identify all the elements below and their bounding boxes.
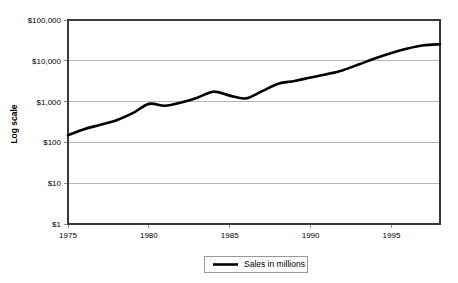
chart-figure: $100,000$10,000$1,000$100$10$1 197519801… xyxy=(0,0,458,283)
y-axis-tick-label: $10 xyxy=(48,179,62,188)
y-axis-tick-label: $100 xyxy=(43,138,61,147)
chart-legend: Sales in millions xyxy=(205,257,308,273)
y-axis-tick-label: $100,000 xyxy=(28,16,62,25)
y-axis-tick-label: $1,000 xyxy=(37,98,62,107)
x-axis-tick-label: 1995 xyxy=(383,231,401,240)
x-axis-tick-label: 1985 xyxy=(221,231,239,240)
y-axis-tick-label: $1 xyxy=(52,220,61,229)
legend-label: Sales in millions xyxy=(244,259,305,269)
log-scale-line-chart: $100,000$10,000$1,000$100$10$1 197519801… xyxy=(0,0,458,283)
x-axis-tick-label: 1990 xyxy=(302,231,320,240)
y-axis-title: Log scale xyxy=(9,104,19,143)
x-axis-tick-label: 1980 xyxy=(140,231,158,240)
x-axis-tick-label: 1975 xyxy=(59,231,77,240)
chart-background xyxy=(0,0,458,283)
y-axis-tick-label: $10,000 xyxy=(32,57,61,66)
